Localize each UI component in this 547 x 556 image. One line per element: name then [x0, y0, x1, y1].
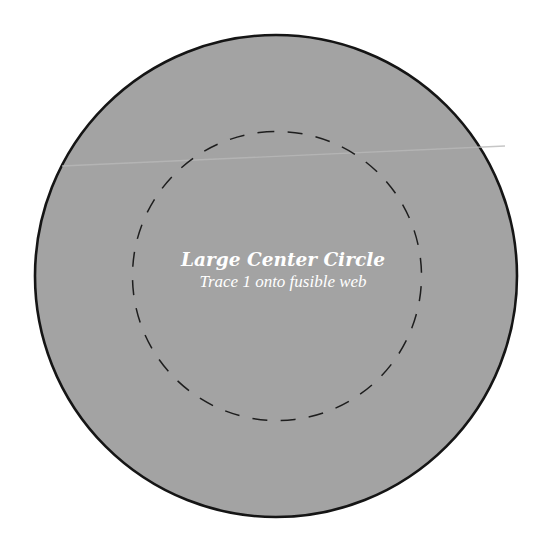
- pattern-sheet: Large Center Circle Trace 1 onto fusible…: [0, 0, 547, 556]
- pattern-drawing: Large Center Circle Trace 1 onto fusible…: [0, 0, 547, 556]
- pattern-title: Large Center Circle: [180, 249, 385, 270]
- pattern-instruction: Trace 1 onto fusible web: [199, 272, 366, 291]
